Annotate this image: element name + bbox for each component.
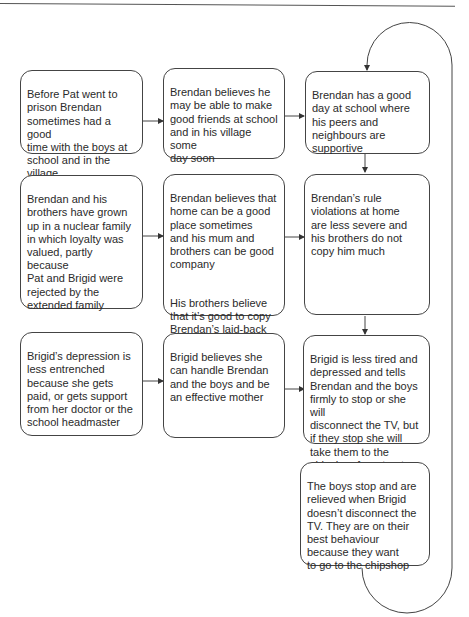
box-depression-entrenched: Brigid’s depression is less entrenched b… xyxy=(20,332,143,436)
box-rule-violations: Brendan’s rule violations at home are le… xyxy=(304,174,430,315)
box-before-prison: Before Pat went to prison Brendan someti… xyxy=(20,70,143,154)
box-text: Brendan has a good day at school where h… xyxy=(312,89,424,155)
box-text: Before Pat went to prison Brendan someti… xyxy=(27,88,137,180)
box-text: Brendan believes that home can be a good… xyxy=(170,192,279,271)
box-text: Brendan and his brothers have grown up i… xyxy=(27,193,137,312)
box-believes-friends: Brendan believes he may be able to make … xyxy=(163,68,285,159)
box-text: Brendan’s rule violations at home are le… xyxy=(311,192,424,258)
box-good-day-school: Brendan has a good day at school where h… xyxy=(305,71,430,154)
box-believes-home: Brendan believes that home can be a good… xyxy=(163,174,285,316)
box-text: Brigid believes she can handle Brendan a… xyxy=(170,351,279,404)
box-brigid-less-tired: Brigid is less tired and depressed and t… xyxy=(303,335,430,444)
box-nuclear-family: Brendan and his brothers have grown up i… xyxy=(20,175,143,309)
box-brigid-believes: Brigid believes she can handle Brendan a… xyxy=(163,333,285,438)
box-text: The boys stop and are relieved when Brig… xyxy=(307,480,424,572)
box-text: Brigid is less tired and depressed and t… xyxy=(310,353,424,472)
box-text: Brendan believes he may be able to make … xyxy=(170,86,279,165)
box-boys-stop: The boys stop and are relieved when Brig… xyxy=(300,462,430,566)
box-text: Brigid’s depression is less entrenched b… xyxy=(27,350,137,429)
